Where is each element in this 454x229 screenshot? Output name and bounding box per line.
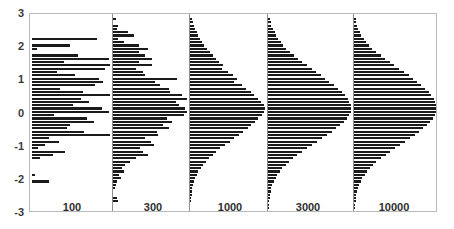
x-axis-tick-label-100: 100 bbox=[63, 201, 81, 213]
bar bbox=[354, 144, 400, 146]
bar bbox=[190, 101, 261, 103]
bar bbox=[268, 41, 281, 43]
bar bbox=[190, 104, 264, 106]
bar bbox=[354, 81, 417, 83]
bar bbox=[113, 127, 169, 129]
bar bbox=[190, 81, 234, 83]
bar bbox=[190, 84, 242, 86]
bar bbox=[354, 207, 355, 209]
bar bbox=[113, 98, 187, 100]
bar bbox=[268, 177, 276, 179]
x-axis-tick-label-1000: 1000 bbox=[218, 201, 242, 213]
bar bbox=[354, 117, 433, 119]
bar bbox=[190, 180, 194, 182]
bar bbox=[32, 78, 99, 80]
bar bbox=[354, 180, 361, 182]
bar bbox=[190, 157, 209, 159]
bar bbox=[190, 117, 258, 119]
bar bbox=[32, 91, 83, 93]
bar-group bbox=[189, 14, 265, 211]
bar bbox=[190, 34, 198, 36]
bar-group bbox=[31, 14, 110, 211]
bar bbox=[354, 48, 372, 50]
bar bbox=[268, 78, 325, 80]
bar bbox=[354, 174, 365, 176]
bar bbox=[354, 71, 404, 73]
x-axis-tick-label-10000: 10000 bbox=[379, 201, 410, 213]
bar bbox=[268, 68, 312, 70]
bar bbox=[190, 71, 228, 73]
bar bbox=[32, 157, 40, 159]
y-axis-tick-label: 2 bbox=[6, 40, 24, 52]
bar bbox=[268, 161, 289, 163]
bar bbox=[113, 84, 160, 86]
panel-100 bbox=[31, 14, 110, 211]
bar bbox=[268, 194, 270, 196]
bar bbox=[354, 94, 431, 96]
bar bbox=[354, 154, 386, 156]
panel-300 bbox=[112, 14, 187, 211]
bar bbox=[354, 98, 434, 100]
bar bbox=[268, 81, 329, 83]
bar bbox=[32, 64, 110, 66]
bar bbox=[113, 51, 139, 53]
bar bbox=[268, 180, 274, 182]
bar bbox=[354, 31, 360, 33]
bar bbox=[113, 177, 121, 179]
bar bbox=[113, 41, 124, 43]
bar bbox=[190, 141, 230, 143]
y-axis: 3210-1-2-3 bbox=[6, 0, 24, 229]
bar bbox=[354, 34, 361, 36]
bar bbox=[32, 151, 65, 153]
bar bbox=[113, 141, 151, 143]
bar bbox=[190, 144, 225, 146]
bar bbox=[268, 154, 297, 156]
bar bbox=[113, 104, 179, 106]
bar bbox=[113, 111, 187, 113]
bar bbox=[32, 38, 97, 40]
bar bbox=[113, 31, 128, 33]
bar bbox=[268, 127, 336, 129]
bar bbox=[268, 18, 270, 20]
bar bbox=[32, 94, 110, 96]
bar bbox=[268, 134, 327, 136]
bar bbox=[190, 44, 204, 46]
bar bbox=[113, 48, 148, 50]
bar bbox=[268, 167, 282, 169]
bar bbox=[354, 64, 394, 66]
bar bbox=[354, 161, 376, 163]
bar bbox=[354, 51, 376, 53]
bar bbox=[32, 54, 78, 56]
bar bbox=[113, 68, 136, 70]
bar bbox=[268, 58, 298, 60]
bar bbox=[113, 114, 184, 116]
bar bbox=[113, 121, 172, 123]
bar bbox=[113, 61, 139, 63]
bar bbox=[113, 161, 130, 163]
bar bbox=[354, 84, 421, 86]
bar bbox=[268, 98, 348, 100]
bar bbox=[190, 54, 213, 56]
bar bbox=[113, 200, 118, 202]
bar bbox=[354, 200, 356, 202]
bar bbox=[268, 38, 278, 40]
bar bbox=[190, 167, 201, 169]
bar bbox=[32, 121, 94, 123]
bar bbox=[268, 147, 307, 149]
bar bbox=[354, 58, 385, 60]
bar bbox=[354, 68, 399, 70]
plot-area bbox=[29, 13, 437, 212]
bar bbox=[354, 124, 427, 126]
bar bbox=[268, 187, 271, 189]
bar bbox=[190, 187, 192, 189]
bar bbox=[268, 137, 322, 139]
bar bbox=[268, 44, 283, 46]
bar bbox=[190, 194, 192, 196]
bar bbox=[113, 101, 176, 103]
bar bbox=[32, 180, 49, 182]
bar bbox=[190, 28, 195, 30]
bar bbox=[190, 58, 216, 60]
bar bbox=[354, 111, 436, 113]
bar bbox=[190, 170, 198, 172]
bar bbox=[113, 197, 117, 199]
